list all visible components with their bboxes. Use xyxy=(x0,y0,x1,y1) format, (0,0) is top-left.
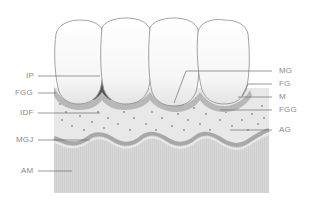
label-fg: FG xyxy=(279,80,291,88)
label-idf: IDF xyxy=(20,109,34,117)
tooth-2 xyxy=(101,18,152,104)
tooth-1 xyxy=(55,20,104,104)
label-mgj: MGJ xyxy=(16,136,34,144)
label-ag: AG xyxy=(279,126,291,134)
label-ip: IP xyxy=(26,72,34,80)
tooth-3 xyxy=(149,18,200,106)
label-m: M xyxy=(279,93,286,101)
teeth xyxy=(55,18,250,106)
label-am: AM xyxy=(21,167,33,175)
label-mg: MG xyxy=(279,67,292,75)
gingiva-diagram xyxy=(0,0,314,205)
label-fgg-right: FGG xyxy=(279,106,297,114)
label-fgg-left: FGG xyxy=(15,89,33,97)
tooth-4 xyxy=(197,20,249,105)
